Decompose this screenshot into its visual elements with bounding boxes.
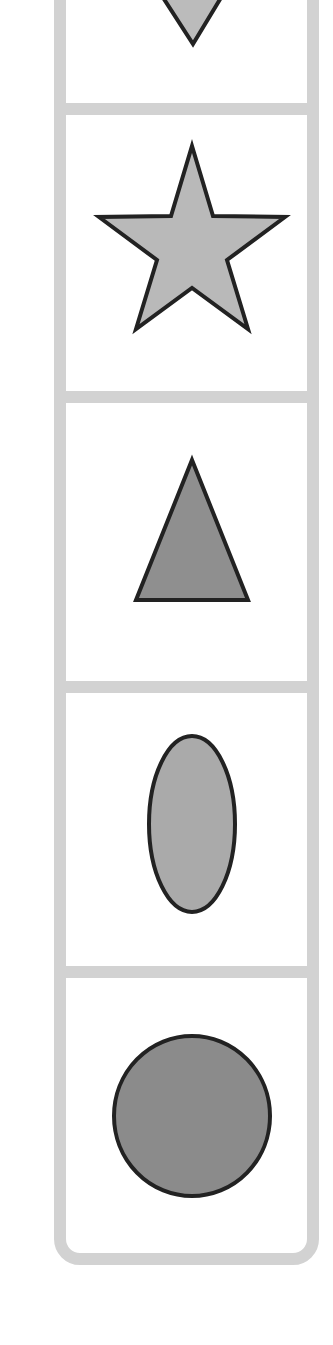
shape-cell-circle[interactable] [66, 978, 307, 1253]
heart-icon [66, 0, 307, 103]
shape-cell-heart[interactable] [66, 0, 307, 103]
shape-cell-star[interactable] [66, 115, 307, 391]
cell-divider [54, 966, 319, 978]
cell-divider [54, 681, 319, 693]
shape-cell-ellipse[interactable] [66, 693, 307, 966]
shape-cell-triangle[interactable] [66, 403, 307, 681]
cell-divider [54, 103, 319, 115]
cell-divider [54, 391, 319, 403]
star-icon [66, 115, 307, 391]
circle-icon [66, 978, 307, 1253]
ellipse-icon [66, 693, 307, 966]
triangle-icon [66, 403, 307, 681]
